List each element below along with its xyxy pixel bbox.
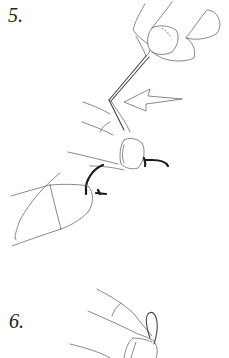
- illustration-canvas: [0, 0, 229, 358]
- step-5-illustration: [11, 2, 220, 246]
- arrow-left-icon: [124, 89, 182, 111]
- hook: [86, 158, 168, 194]
- lower-fingers: [68, 100, 144, 170]
- step-6-illustration: [70, 289, 157, 358]
- upper-fingers: [133, 2, 220, 61]
- thread-pair: [109, 56, 149, 101]
- pinching-fingers: [70, 289, 157, 358]
- left-fingers: [11, 173, 93, 246]
